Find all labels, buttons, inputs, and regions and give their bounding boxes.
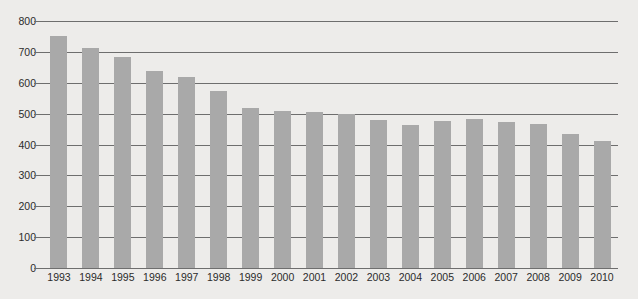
y-axis-tick-label: 400 xyxy=(0,140,36,151)
y-axis-tick-label: 300 xyxy=(0,170,36,181)
x-axis-tick-label: 1995 xyxy=(106,272,140,283)
x-axis-tick-label: 2007 xyxy=(489,272,523,283)
y-tick-mark xyxy=(34,145,43,146)
y-axis-tick-label: 800 xyxy=(0,16,36,27)
y-axis: 8007006005004003002001000 xyxy=(0,21,36,268)
x-axis-tick-label: 2006 xyxy=(457,272,491,283)
y-tick-mark xyxy=(34,268,43,269)
y-axis-tick-label: 100 xyxy=(0,232,36,243)
x-axis-tick-label: 1997 xyxy=(170,272,204,283)
y-axis-tick-label: 0 xyxy=(0,263,36,274)
x-axis-tick-label: 2002 xyxy=(329,272,363,283)
y-tick-mark xyxy=(34,175,43,176)
x-axis-tick-label: 1996 xyxy=(138,272,172,283)
x-axis-tick-label: 2000 xyxy=(266,272,300,283)
x-axis-tick-label: 2001 xyxy=(298,272,332,283)
y-axis-tick-label: 500 xyxy=(0,109,36,120)
x-axis-tick-label: 1993 xyxy=(42,272,76,283)
x-axis-tick-label: 2004 xyxy=(393,272,427,283)
y-axis-tick-label: 200 xyxy=(0,201,36,212)
bar-chart: 8007006005004003002001000 19931994199519… xyxy=(0,0,638,299)
x-axis-tick-label: 1994 xyxy=(74,272,108,283)
x-axis-tick-label: 2003 xyxy=(361,272,395,283)
y-axis-tick-label: 600 xyxy=(0,78,36,89)
x-axis-tick-label: 2010 xyxy=(585,272,619,283)
y-tick-mark xyxy=(34,83,43,84)
x-axis-tick-label: 2008 xyxy=(521,272,555,283)
x-axis-tick-label: 2005 xyxy=(425,272,459,283)
x-axis-tick-label: 1999 xyxy=(234,272,268,283)
x-axis: 1993199419951996199719981999200020012002… xyxy=(43,0,618,299)
y-tick-mark xyxy=(34,237,43,238)
x-axis-tick-label: 1998 xyxy=(202,272,236,283)
y-tick-mark xyxy=(34,114,43,115)
y-tick-mark xyxy=(34,52,43,53)
y-axis-tick-label: 700 xyxy=(0,47,36,58)
y-tick-mark xyxy=(34,206,43,207)
x-axis-tick-label: 2009 xyxy=(553,272,587,283)
y-tick-mark xyxy=(34,21,43,22)
